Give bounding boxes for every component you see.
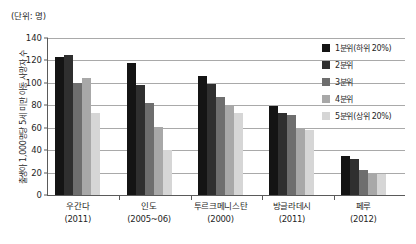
legend-item: 1분위(하위 20%) xyxy=(322,39,416,56)
bar xyxy=(127,63,136,195)
x-axis-label-name: 방글라데시 xyxy=(273,201,312,211)
legend-label: 3분위 xyxy=(335,76,353,87)
chart-legend: 1분위(하위 20%)2분위3분위4분위5분위(상위 20%) xyxy=(322,39,416,124)
bar xyxy=(64,55,73,195)
bar xyxy=(55,57,64,195)
legend-item: 3분위 xyxy=(322,73,416,90)
chart-container: (단위: 명) 출생아 1,000명당 5세 미만 아동 사망자 수 02040… xyxy=(0,0,416,244)
legend-swatch-icon xyxy=(322,112,330,120)
legend-swatch-icon xyxy=(322,95,330,103)
x-axis-label-year: (2012) xyxy=(313,213,413,226)
legend-label: 5분위(상위 20%) xyxy=(335,110,391,121)
bar xyxy=(350,159,359,195)
y-axis-title: 출생아 1,000명당 5세 미만 아동 사망자 수 xyxy=(17,38,28,198)
legend-swatch-icon xyxy=(322,78,330,86)
bar xyxy=(368,174,377,195)
legend-label: 2분위 xyxy=(335,59,353,70)
legend-item: 4분위 xyxy=(322,90,416,107)
bar xyxy=(359,170,368,195)
legend-label: 4분위 xyxy=(335,93,353,104)
legend-label: 1분위(하위 20%) xyxy=(335,42,391,53)
x-axis-label-name: 우간다 xyxy=(66,201,89,211)
bar xyxy=(305,130,314,195)
x-axis-label-name: 투르크메니스탄 xyxy=(194,201,248,211)
bar xyxy=(216,97,225,195)
legend-swatch-icon xyxy=(322,61,330,69)
x-axis-label-name: 인도 xyxy=(141,201,156,211)
bar-group xyxy=(269,38,314,195)
bar-group xyxy=(127,38,172,195)
bar xyxy=(91,113,100,195)
bar xyxy=(145,103,154,195)
bar xyxy=(296,129,305,195)
legend-item: 2분위 xyxy=(322,56,416,73)
bar xyxy=(198,76,207,195)
bar xyxy=(73,83,82,195)
bar xyxy=(234,113,243,195)
unit-label: (단위: 명) xyxy=(11,9,46,21)
bar-group xyxy=(198,38,243,195)
bar-group xyxy=(55,38,100,195)
x-axis-label: 페루(2012) xyxy=(313,200,413,226)
bar xyxy=(163,150,172,195)
gridline xyxy=(48,195,405,196)
bar xyxy=(287,115,296,195)
bar xyxy=(377,174,386,195)
bar xyxy=(278,113,287,195)
bar xyxy=(341,156,350,195)
bar xyxy=(136,85,145,195)
x-axis-label-name: 페루 xyxy=(356,201,371,211)
legend-item: 5분위(상위 20%) xyxy=(322,107,416,124)
bar xyxy=(269,106,278,195)
bar xyxy=(207,84,216,195)
bar xyxy=(225,105,234,195)
bar xyxy=(154,127,163,195)
legend-swatch-icon xyxy=(322,44,330,52)
bar xyxy=(82,78,91,195)
